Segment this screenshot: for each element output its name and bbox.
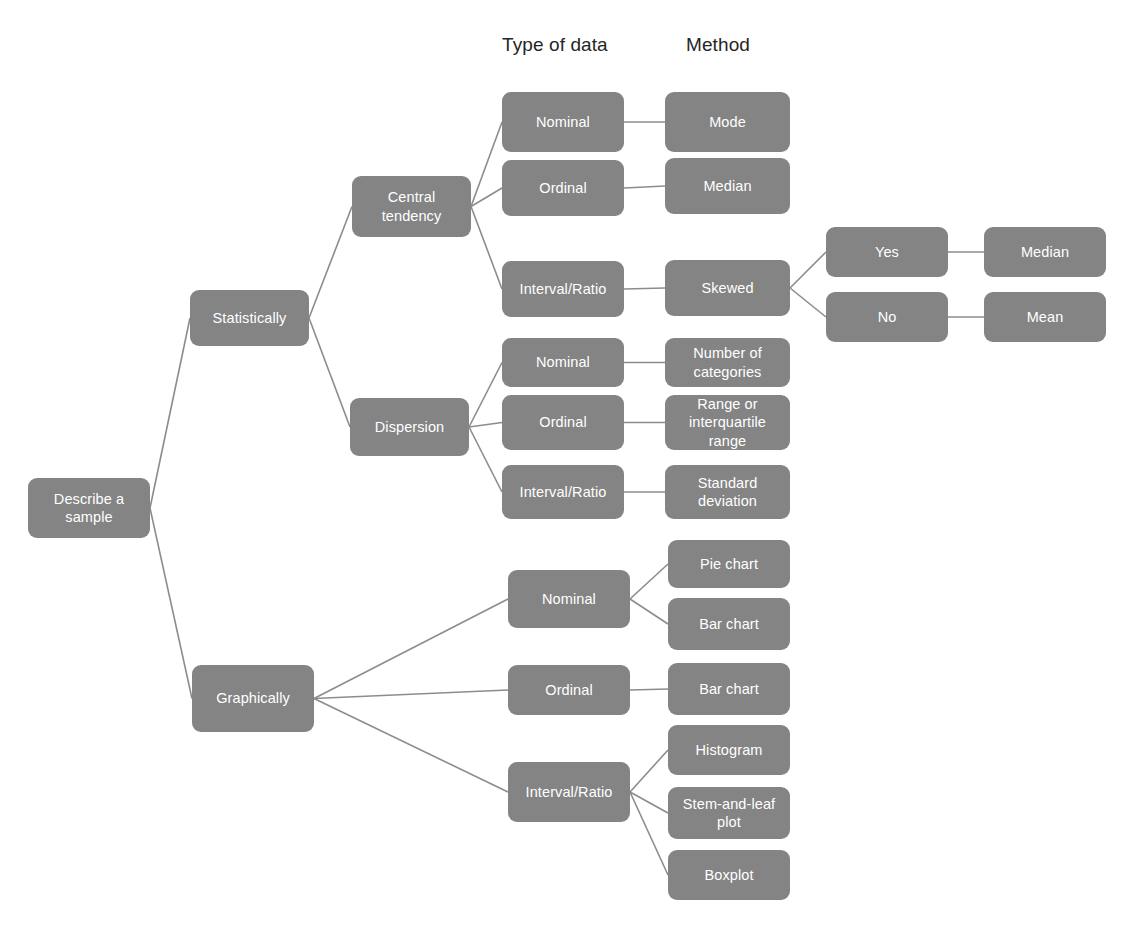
node-label: Interval/Ratio	[520, 280, 607, 298]
node-label: Interval/Ratio	[520, 483, 607, 501]
flowchart-canvas: Type of dataMethod Describe a sampleStat…	[0, 0, 1134, 936]
node-g-nominal[interactable]: Nominal	[508, 570, 630, 628]
node-label: Graphically	[216, 689, 290, 707]
node-label: Nominal	[542, 590, 596, 608]
node-m-barchart2[interactable]: Bar chart	[668, 663, 790, 715]
node-label: Histogram	[696, 741, 763, 759]
edge-graphically-to-g-interval	[314, 699, 508, 793]
edge-statistically-to-central	[309, 207, 352, 319]
edge-ct-interval-to-m-skewed	[624, 288, 665, 289]
edge-root-to-graphically	[150, 508, 192, 699]
node-label: Skewed	[701, 279, 753, 297]
edge-root-to-statistically	[150, 318, 190, 508]
edge-g-interval-to-m-histogram	[630, 750, 668, 792]
node-m-boxplot[interactable]: Boxplot	[668, 850, 790, 900]
node-d-interval[interactable]: Interval/Ratio	[502, 465, 624, 519]
edge-dispersion-to-d-ordinal	[469, 423, 502, 428]
hdr-type-of-data: Type of data	[502, 34, 608, 56]
node-central[interactable]: Central tendency	[352, 176, 471, 237]
edge-central-to-ct-nominal	[471, 122, 502, 207]
node-graphically[interactable]: Graphically	[192, 665, 314, 732]
node-label: Nominal	[536, 113, 590, 131]
edge-m-skewed-to-skew-no	[790, 288, 826, 317]
edge-g-interval-to-m-boxplot	[630, 792, 668, 875]
node-dispersion[interactable]: Dispersion	[350, 398, 469, 456]
edge-central-to-ct-interval	[471, 207, 502, 290]
node-label: Pie chart	[700, 555, 758, 573]
node-label: Boxplot	[704, 866, 753, 884]
node-label: Nominal	[536, 353, 590, 371]
node-m-median[interactable]: Median	[665, 158, 790, 214]
edge-m-skewed-to-skew-yes	[790, 252, 826, 288]
edge-central-to-ct-ordinal	[471, 188, 502, 207]
node-label: Mode	[709, 113, 746, 131]
node-label: Central tendency	[382, 188, 442, 224]
node-label: Mean	[1027, 308, 1064, 326]
node-label: Stem-and-leaf plot	[683, 795, 775, 831]
node-ct-interval[interactable]: Interval/Ratio	[502, 261, 624, 317]
node-m-barchart1[interactable]: Bar chart	[668, 598, 790, 650]
node-m-skewed[interactable]: Skewed	[665, 260, 790, 316]
node-label: Describe a sample	[54, 490, 124, 526]
node-skew-no[interactable]: No	[826, 292, 948, 342]
node-ct-ordinal[interactable]: Ordinal	[502, 160, 624, 216]
edge-g-ordinal-to-m-barchart2	[630, 689, 668, 690]
hdr-method: Method	[686, 34, 750, 56]
node-m-histogram[interactable]: Histogram	[668, 725, 790, 775]
node-label: Number of categories	[693, 344, 762, 380]
node-label: Dispersion	[375, 418, 445, 436]
node-d-nominal[interactable]: Nominal	[502, 338, 624, 387]
node-label: Interval/Ratio	[526, 783, 613, 801]
node-label: Range or interquartile range	[689, 395, 766, 449]
edge-g-interval-to-m-stemleaf	[630, 792, 668, 813]
node-skew-mean[interactable]: Mean	[984, 292, 1106, 342]
node-label: Median	[703, 177, 751, 195]
node-m-mode[interactable]: Mode	[665, 92, 790, 152]
node-label: Bar chart	[699, 615, 759, 633]
node-label: Ordinal	[539, 413, 586, 431]
edge-graphically-to-g-ordinal	[314, 690, 508, 699]
edge-statistically-to-dispersion	[309, 318, 350, 427]
node-m-pie[interactable]: Pie chart	[668, 540, 790, 588]
node-m-sd[interactable]: Standard deviation	[665, 465, 790, 519]
edge-g-nominal-to-m-barchart1	[630, 599, 668, 624]
node-label: Bar chart	[699, 680, 759, 698]
edge-graphically-to-g-nominal	[314, 599, 508, 699]
node-g-interval[interactable]: Interval/Ratio	[508, 762, 630, 822]
node-label: No	[878, 308, 897, 326]
node-label: Yes	[875, 243, 899, 261]
node-label: Ordinal	[545, 681, 592, 699]
node-m-numcat[interactable]: Number of categories	[665, 338, 790, 387]
node-m-range[interactable]: Range or interquartile range	[665, 395, 790, 450]
node-d-ordinal[interactable]: Ordinal	[502, 395, 624, 450]
node-statistically[interactable]: Statistically	[190, 290, 309, 346]
edge-dispersion-to-d-interval	[469, 427, 502, 492]
node-label: Ordinal	[539, 179, 586, 197]
node-ct-nominal[interactable]: Nominal	[502, 92, 624, 152]
node-g-ordinal[interactable]: Ordinal	[508, 665, 630, 715]
node-skew-median[interactable]: Median	[984, 227, 1106, 277]
edge-ct-ordinal-to-m-median	[624, 186, 665, 188]
node-label: Standard deviation	[698, 474, 758, 510]
node-m-stemleaf[interactable]: Stem-and-leaf plot	[668, 787, 790, 839]
node-skew-yes[interactable]: Yes	[826, 227, 948, 277]
edge-dispersion-to-d-nominal	[469, 363, 502, 428]
node-label: Statistically	[213, 309, 287, 327]
node-label: Median	[1021, 243, 1069, 261]
node-root[interactable]: Describe a sample	[28, 478, 150, 538]
edge-g-nominal-to-m-pie	[630, 564, 668, 599]
